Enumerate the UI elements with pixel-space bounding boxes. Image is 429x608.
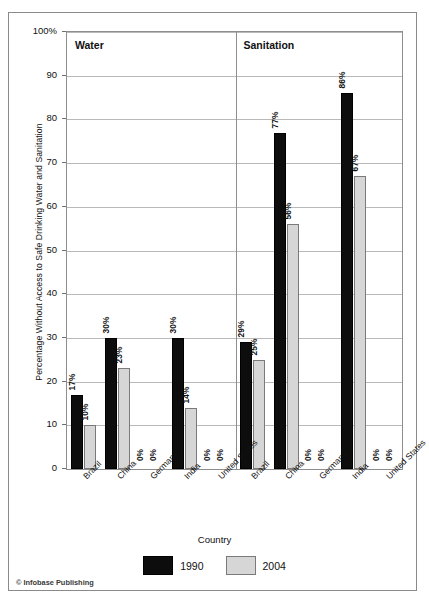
y-tick-label: 80: [0, 112, 57, 123]
legend-label: 1990: [180, 560, 203, 572]
chart-figure: Percentage Without Access to Safe Drinki…: [0, 0, 429, 608]
y-tick-label: 30: [0, 331, 57, 342]
plot-area: WaterSanitation 17%10%30%23%0%0%30%14%0%…: [66, 31, 403, 470]
bar-value-label: 17%: [67, 374, 77, 391]
bar: 56%: [287, 224, 299, 469]
y-tick-label: 40: [0, 287, 57, 298]
x-axis-title: Country: [0, 534, 429, 545]
y-tick-label: 50: [0, 244, 57, 255]
y-tick-mark: [62, 424, 66, 425]
y-tick-mark: [62, 162, 66, 163]
bar: 30%: [172, 338, 184, 469]
bar-value-label: 0%: [371, 449, 381, 461]
legend-item: 2004: [226, 556, 286, 575]
bar-value-label: 0%: [384, 449, 394, 461]
legend: 19902004: [0, 556, 429, 575]
y-tick-mark: [62, 381, 66, 382]
panel-title-water: Water: [75, 39, 104, 51]
y-tick-mark: [62, 337, 66, 338]
bar-value-label: 14%: [181, 387, 191, 404]
bar: 25%: [253, 360, 265, 469]
y-tick-label: 100%: [0, 25, 57, 36]
bar-value-label: 25%: [249, 339, 259, 356]
bar-value-label: 77%: [270, 112, 280, 129]
bar-value-label: 86%: [337, 72, 347, 89]
bar: 86%: [341, 93, 353, 469]
y-tick-label: 20: [0, 375, 57, 386]
bar-value-label: 30%: [101, 317, 111, 334]
bar-value-label: 0%: [316, 449, 326, 461]
bar-value-label: 0%: [215, 449, 225, 461]
y-tick-mark: [62, 31, 66, 32]
bar: 67%: [354, 176, 366, 469]
y-tick-mark: [62, 206, 66, 207]
bar-value-label: 0%: [202, 449, 212, 461]
bar-value-label: 0%: [148, 449, 158, 461]
panel-title-sanitation: Sanitation: [244, 39, 295, 51]
bar-value-label: 67%: [350, 155, 360, 172]
y-tick-label: 60: [0, 200, 57, 211]
legend-swatch: [143, 556, 173, 575]
y-tick-label: 0: [0, 462, 57, 473]
y-tick-label: 70: [0, 156, 57, 167]
y-tick-mark: [62, 75, 66, 76]
bar: 77%: [274, 133, 286, 469]
y-tick-label: 90: [0, 69, 57, 80]
panel-divider: [236, 32, 237, 469]
bar-value-label: 23%: [114, 347, 124, 364]
y-tick-mark: [62, 293, 66, 294]
bar-value-label: 29%: [236, 321, 246, 338]
y-tick-mark: [62, 118, 66, 119]
bar-value-label: 0%: [303, 449, 313, 461]
legend-swatch: [226, 556, 256, 575]
bar-value-label: 30%: [168, 317, 178, 334]
bar-value-label: 0%: [135, 449, 145, 461]
bar-value-label: 10%: [80, 404, 90, 421]
gridline: [67, 32, 402, 33]
y-tick-label: 10: [0, 418, 57, 429]
credit-text: © Infobase Publishing: [16, 578, 94, 587]
bar: 23%: [118, 368, 130, 469]
y-tick-mark: [62, 250, 66, 251]
y-tick-mark: [62, 468, 66, 469]
bar-value-label: 56%: [283, 203, 293, 220]
gridline: [67, 76, 402, 77]
legend-label: 2004: [263, 560, 286, 572]
legend-item: 1990: [143, 556, 203, 575]
